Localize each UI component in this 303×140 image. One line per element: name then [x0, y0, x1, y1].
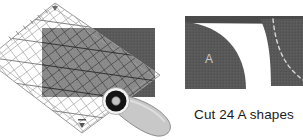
- figure-root: A Cut 24 A shapes: [0, 0, 303, 140]
- piece-A: [185, 22, 246, 89]
- rotary-cutting-illustration: [0, 0, 185, 140]
- cut-shapes-caption: Cut 24 A shapes: [185, 106, 303, 124]
- cut-shapes-diagram: A Cut 24 A shapes: [185, 0, 303, 140]
- cutter-blade-hub: [112, 97, 120, 105]
- right-panel-svg: A: [185, 0, 303, 106]
- piece-A-label: A: [205, 52, 213, 66]
- piece-A-body: [185, 22, 246, 89]
- left-panel-svg: [0, 0, 185, 140]
